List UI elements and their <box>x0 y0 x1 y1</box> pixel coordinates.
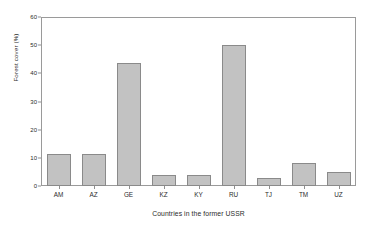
bar-slot <box>41 17 76 186</box>
x-axis-tick-mark <box>339 186 340 189</box>
bar-kz[interactable] <box>152 175 176 186</box>
y-axis-tick-label: 0 <box>0 183 37 189</box>
x-axis-tick-mark <box>59 186 60 189</box>
bar-am[interactable] <box>47 154 71 186</box>
y-axis-tick-label: 40 <box>0 70 37 76</box>
x-axis-tick-mark <box>164 186 165 189</box>
x-axis-tick-mark <box>94 186 95 189</box>
bar-uz[interactable] <box>327 172 351 186</box>
bar-slot <box>76 17 111 186</box>
x-axis-tick-mark <box>304 186 305 189</box>
bar-slot <box>216 17 251 186</box>
bar-slot <box>321 17 356 186</box>
bar-slot <box>181 17 216 186</box>
bar-ge[interactable] <box>117 63 141 186</box>
x-axis-title: Countries in the former USSR <box>41 210 356 217</box>
x-axis-tick-mark <box>269 186 270 189</box>
x-axis-label-uz: UZ <box>317 191 361 198</box>
bar-tj[interactable] <box>257 178 281 186</box>
y-axis-tick-label: 20 <box>0 127 37 133</box>
bar-ru[interactable] <box>222 45 246 186</box>
bar-slot <box>146 17 181 186</box>
bar-slot <box>251 17 286 186</box>
x-axis-tick-mark <box>234 186 235 189</box>
y-axis-tick-label: 60 <box>0 14 37 20</box>
bar-tm[interactable] <box>292 163 316 186</box>
bar-chart: Forest cover (%) 0102030405060 AMAZGEKZK… <box>0 0 367 232</box>
y-axis-tick-label: 30 <box>0 99 37 105</box>
bar-az[interactable] <box>82 154 106 186</box>
x-axis-tick-mark <box>199 186 200 189</box>
x-axis-tick-mark <box>129 186 130 189</box>
y-axis-tick-label: 10 <box>0 155 37 161</box>
bar-slot <box>286 17 321 186</box>
bar-slot <box>111 17 146 186</box>
bar-ky[interactable] <box>187 175 211 186</box>
bars-layer <box>41 17 356 186</box>
y-axis-tick-label: 50 <box>0 42 37 48</box>
